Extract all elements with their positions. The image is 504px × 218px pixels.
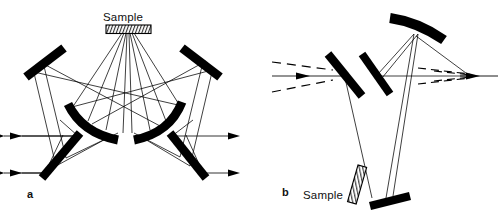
upper-left-flat-mirror <box>26 48 64 77</box>
panel-label-b: b <box>282 186 289 198</box>
sample-holder-b <box>348 165 367 204</box>
panel-b-group <box>272 18 498 206</box>
sample-holder-a <box>106 25 151 34</box>
panel-b-input-arrow-head <box>296 73 310 80</box>
panel-b-output-arrow-head <box>466 73 480 80</box>
diagram-canvas <box>0 0 504 218</box>
sample-label-panel-a: Sample <box>103 11 143 23</box>
bottom-flat-mirror <box>370 196 410 206</box>
optical-diagram-figure: Sample Sample a b <box>0 0 504 218</box>
left-steering-flat-mirror <box>328 54 362 96</box>
panel-a-input-arrow-heads <box>10 133 22 177</box>
panel-a-output-arrow-heads <box>228 133 240 177</box>
panel-a-group <box>4 25 240 178</box>
panel-label-a: a <box>27 188 33 200</box>
right-steering-flat-mirror <box>362 54 390 94</box>
sample-label-panel-b: Sample <box>303 189 343 201</box>
